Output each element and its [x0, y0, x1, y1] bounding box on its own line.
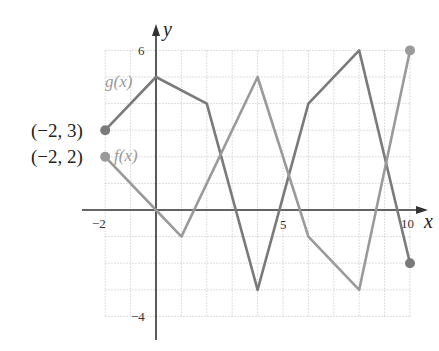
endpoint-dot — [100, 152, 110, 162]
x-tick-10: 10 — [401, 216, 414, 231]
g-function-label: g(x) — [105, 72, 133, 91]
series-lines — [105, 50, 410, 289]
y-tick-6: 6 — [138, 43, 145, 58]
endpoint-dot — [405, 258, 415, 268]
x-axis-label: x — [423, 210, 433, 232]
series-gx-line — [105, 50, 410, 289]
x-tick-5: 5 — [280, 217, 287, 232]
axes — [82, 24, 428, 340]
chart: x y −2 5 10 6 −4 g(x) f(x) (−2, 3) (−2, … — [0, 0, 439, 351]
point-label-g-start: (−2, 3) — [31, 120, 83, 142]
series-fx-line — [105, 50, 410, 289]
y-axis-arrow-icon — [152, 24, 160, 36]
point-label-f-start: (−2, 2) — [31, 146, 83, 168]
y-tick-neg4: −4 — [131, 309, 145, 324]
endpoint-dot — [405, 45, 415, 55]
y-axis-label: y — [161, 18, 172, 41]
f-function-label: f(x) — [114, 146, 138, 165]
x-tick-neg2: −2 — [92, 216, 106, 231]
endpoint-dot — [100, 125, 110, 135]
grid — [105, 50, 410, 316]
